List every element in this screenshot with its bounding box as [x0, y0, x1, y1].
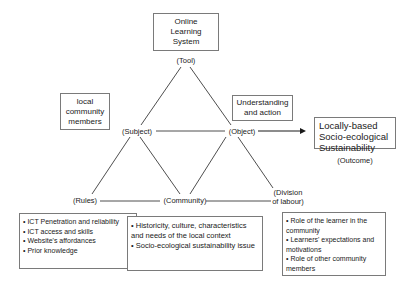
rules-item: • ICT Penetration and reliability: [23, 217, 133, 227]
division-item: • Learners' expectations and motivations: [286, 235, 382, 254]
tool-line-1: Online: [154, 17, 218, 27]
rules-box: • ICT Penetration and reliability • ICT …: [19, 213, 137, 269]
division-label: (Division of labour): [270, 188, 306, 206]
object-line-2: and action: [233, 108, 292, 118]
subject-label: (Subject): [117, 127, 157, 136]
object-box: Understanding and action: [232, 95, 293, 121]
community-box: • Historicity, culture, characteristics …: [127, 216, 263, 271]
outcome-box: Locally-based Socio-ecological Sustainab…: [314, 117, 396, 149]
division-label-line-2: of labour): [270, 197, 306, 206]
rules-item: • Website's affordances: [23, 236, 133, 246]
subject-line-2: community: [61, 107, 109, 117]
tool-line-2: Learning: [154, 27, 218, 37]
subject-box: local community members: [60, 93, 110, 130]
outcome-label: (Outcome): [330, 156, 380, 165]
community-item: • Socio-ecological sustainability issue: [131, 241, 259, 251]
rules-item: • Prior knowledge: [23, 246, 133, 256]
tool-line-3: System: [154, 37, 218, 47]
subject-line-1: local: [61, 97, 109, 107]
outcome-line-3: Sustainability: [319, 142, 395, 153]
rules-label: (Rules): [70, 196, 100, 205]
object-line-1: Understanding: [233, 98, 292, 108]
division-label-line-1: (Division: [270, 188, 306, 197]
subject-line-3: members: [61, 117, 109, 127]
community-label: (Community): [162, 196, 208, 205]
outcome-line-2: Socio-ecological: [319, 131, 395, 142]
division-item: • Role of the learner in the community: [286, 216, 382, 235]
tool-label: (Tool): [170, 56, 202, 65]
division-box: • Role of the learner in the community •…: [282, 212, 386, 276]
division-item: • Role of other community members: [286, 254, 382, 273]
rules-item: • ICT access and skills: [23, 227, 133, 237]
tool-box: Online Learning System: [153, 13, 219, 51]
community-item: • Historicity, culture, characteristics …: [131, 221, 259, 241]
object-label: (Object): [224, 127, 260, 136]
outcome-line-1: Locally-based: [319, 120, 395, 131]
